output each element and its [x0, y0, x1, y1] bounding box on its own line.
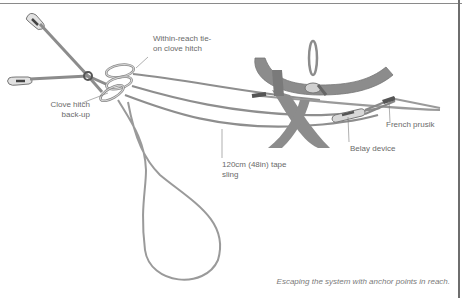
harness-icon: [255, 41, 393, 148]
anchor-slings: [30, 24, 108, 92]
french-prusik-icon: [365, 96, 440, 114]
label-french-prusik: French prusik: [386, 120, 434, 130]
label-tie-on-clove-hitch: Within-reach tie- on clove hitch: [153, 34, 211, 53]
carabiner-icon: [98, 82, 126, 104]
tape-sling-loop: [118, 100, 220, 280]
rope-knot-icon: [252, 94, 266, 96]
bolt-hanger-icon: [8, 77, 33, 85]
figure-caption: Escaping the system with anchor points i…: [277, 277, 450, 286]
label-clove-hitch-backup: Clove hitch back-up: [38, 100, 90, 119]
label-belay-device: Belay device: [350, 144, 395, 154]
label-tape-sling: 120cm (48in) tape sling: [222, 160, 286, 179]
